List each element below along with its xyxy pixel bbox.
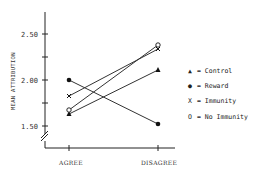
control-triangle-marker-disagree <box>156 67 161 72</box>
series-lines <box>69 45 158 124</box>
series-immunity-line <box>69 49 158 96</box>
no-immunity-circle-marker-disagree <box>156 43 160 47</box>
x-axis <box>45 145 175 151</box>
series-reward-line <box>69 80 158 124</box>
line-chart: 2.50 2.00 1.50 MEAN ATTRIBUTION AGREE DI… <box>0 0 260 177</box>
legend-label-immunity: = Immunity <box>197 97 236 105</box>
legend-symbol-no-immunity: O <box>188 113 192 121</box>
no-immunity-circle-marker-agree <box>67 108 71 112</box>
legend-label-reward: = Reward <box>197 82 228 90</box>
legend-label-control: = Control <box>197 67 232 75</box>
series-no-immunity-line <box>69 45 158 110</box>
legend: ▲ = Control ● = Reward X = Immunity O = … <box>188 67 248 121</box>
legend-label-no-immunity: = No Immunity <box>197 113 248 121</box>
x-label-agree: AGREE <box>58 159 83 166</box>
y-axis-title: MEAN ATTRIBUTION <box>10 52 16 110</box>
legend-symbol-reward: ● <box>188 82 192 90</box>
y-axis <box>41 12 48 148</box>
legend-symbol-control: ▲ <box>188 67 192 75</box>
legend-symbol-immunity: X <box>188 97 192 105</box>
x-label-disagree: DISAGREE <box>141 159 177 166</box>
reward-circle-marker-disagree <box>156 122 161 127</box>
y-tick-label-2-00: 2.00 <box>21 77 38 85</box>
immunity-x-marker-agree <box>67 94 71 98</box>
y-tick-label-2-50: 2.50 <box>21 31 38 39</box>
series-control-line <box>69 70 158 114</box>
y-tick-label-1-50: 1.50 <box>21 123 38 131</box>
reward-circle-marker-agree <box>67 78 72 83</box>
